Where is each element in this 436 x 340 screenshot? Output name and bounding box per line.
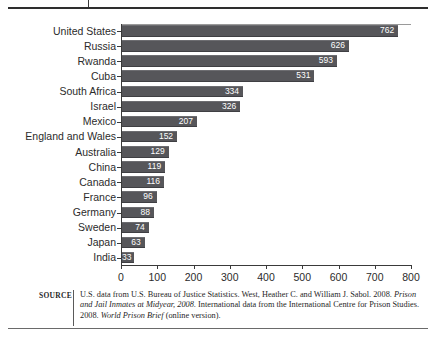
bar-row: United States762 xyxy=(121,24,411,39)
category-label: India xyxy=(0,252,116,264)
bar-value-label: 626 xyxy=(122,40,349,52)
bar-value-label: 593 xyxy=(122,55,337,67)
bar-row: Mexico207 xyxy=(121,115,411,130)
bar-row: South Africa334 xyxy=(121,85,411,100)
x-axis-tick-label: 0 xyxy=(118,271,124,283)
x-axis-tick-label: 400 xyxy=(257,271,275,283)
plot-area: United States762Russia626Rwanda593Cuba53… xyxy=(121,24,411,266)
bar-value-label: 207 xyxy=(122,116,197,128)
bar-row: Japan63 xyxy=(121,236,411,251)
source-divider xyxy=(73,290,74,326)
bar-row: Canada116 xyxy=(121,175,411,190)
category-label: South Africa xyxy=(0,86,116,98)
bar-row: Cuba531 xyxy=(121,69,411,84)
source-bottom-rule xyxy=(8,328,428,329)
source-text: U.S. data from U.S. Bureau of Justice St… xyxy=(80,290,428,321)
x-axis-tick-label: 200 xyxy=(185,271,203,283)
x-axis-tick xyxy=(230,265,231,269)
x-axis-tick xyxy=(194,265,195,269)
bar-chart: United States762Russia626Rwanda593Cuba53… xyxy=(0,20,436,282)
x-axis-tick xyxy=(302,265,303,269)
bar-row: England and Wales152 xyxy=(121,130,411,145)
source-label: SOURCE xyxy=(39,291,72,300)
bar-row: Israel326 xyxy=(121,100,411,115)
y-axis-tick xyxy=(117,167,121,168)
bar-value-label: 119 xyxy=(122,161,165,173)
bar-value-label: 129 xyxy=(122,146,169,158)
y-axis-tick xyxy=(117,46,121,47)
bar-row: Russia626 xyxy=(121,39,411,54)
x-axis-tick xyxy=(121,265,122,269)
bar-row: India33 xyxy=(121,251,411,266)
source-title-2: World Prison Brief xyxy=(101,311,164,320)
x-axis-tick-label: 700 xyxy=(366,271,384,283)
bar-row: France96 xyxy=(121,190,411,205)
y-axis-tick xyxy=(117,213,121,214)
x-axis-tick xyxy=(266,265,267,269)
x-axis-tick xyxy=(157,265,158,269)
x-axis-tick-label: 800 xyxy=(402,271,420,283)
x-axis-tick xyxy=(375,265,376,269)
category-label: United States xyxy=(0,26,116,38)
category-label: Israel xyxy=(0,101,116,113)
bar-row: China119 xyxy=(121,160,411,175)
bar-row: Rwanda593 xyxy=(121,54,411,69)
category-label: England and Wales xyxy=(0,131,116,143)
y-axis-tick xyxy=(117,76,121,77)
bar-value-label: 762 xyxy=(122,25,398,37)
bar-value-label: 152 xyxy=(122,131,177,143)
source-title-1: Prison and Jail Inmates at Midyear, 2008 xyxy=(80,290,416,309)
y-axis-tick xyxy=(117,61,121,62)
bar-value-label: 326 xyxy=(122,101,240,113)
x-axis-tick-label: 100 xyxy=(148,271,166,283)
category-label: Japan xyxy=(0,237,116,249)
bar-row: Germany88 xyxy=(121,206,411,221)
x-axis-tick-label: 600 xyxy=(330,271,348,283)
y-axis-tick xyxy=(117,197,121,198)
bar-value-label: 74 xyxy=(122,222,149,234)
source-note: SOURCE U.S. data from U.S. Bureau of Jus… xyxy=(8,290,428,336)
category-label: Cuba xyxy=(0,71,116,83)
category-label: Sweden xyxy=(0,222,116,234)
bar-value-label: 334 xyxy=(122,86,243,98)
category-label: Australia xyxy=(0,147,116,159)
x-axis-tick-label: 300 xyxy=(221,271,239,283)
bar-value-label: 33 xyxy=(122,252,134,264)
x-axis-tick xyxy=(411,265,412,269)
category-label: Rwanda xyxy=(0,56,116,68)
x-axis-tick xyxy=(339,265,340,269)
y-axis-tick xyxy=(117,122,121,123)
bar-value-label: 96 xyxy=(122,191,157,203)
y-axis-tick xyxy=(117,243,121,244)
y-axis-tick xyxy=(117,137,121,138)
y-axis-tick xyxy=(117,228,121,229)
bar-row: Sweden74 xyxy=(121,221,411,236)
y-axis-tick xyxy=(117,182,121,183)
bar-row: Australia129 xyxy=(121,145,411,160)
y-axis-tick xyxy=(117,258,121,259)
top-rule xyxy=(8,7,428,9)
category-label: China xyxy=(0,162,116,174)
bar-value-label: 63 xyxy=(122,237,145,249)
top-rule-container xyxy=(8,0,428,12)
y-axis-tick xyxy=(117,92,121,93)
y-axis-tick xyxy=(117,107,121,108)
category-label: Mexico xyxy=(0,116,116,128)
y-axis-tick xyxy=(117,31,121,32)
category-label: Canada xyxy=(0,177,116,189)
y-axis-tick xyxy=(117,152,121,153)
category-label: France xyxy=(0,192,116,204)
category-label: Germany xyxy=(0,207,116,219)
category-label: Russia xyxy=(0,41,116,53)
bar-value-label: 116 xyxy=(122,176,164,188)
x-axis-tick-label: 500 xyxy=(293,271,311,283)
bar-value-label: 88 xyxy=(122,207,154,219)
bar-value-label: 531 xyxy=(122,70,314,82)
